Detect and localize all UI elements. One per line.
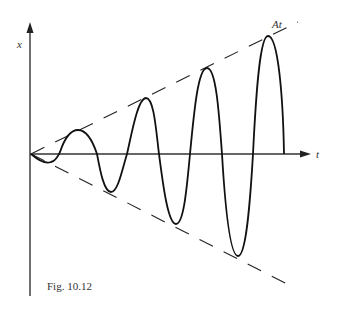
x-axis-label: t: [316, 148, 320, 160]
envelope-label: At: [271, 18, 283, 30]
figure-caption: Fig. 10.12: [47, 280, 92, 292]
lower-envelope-line: [31, 154, 295, 288]
t-axis-arrow-icon: [300, 151, 311, 158]
y-axis-arrow-icon: [27, 22, 34, 33]
oscillation-diagram: x t At Fig. 10.12: [0, 0, 337, 310]
y-axis-label: x: [16, 38, 22, 50]
oscillation-curve: [31, 36, 284, 256]
